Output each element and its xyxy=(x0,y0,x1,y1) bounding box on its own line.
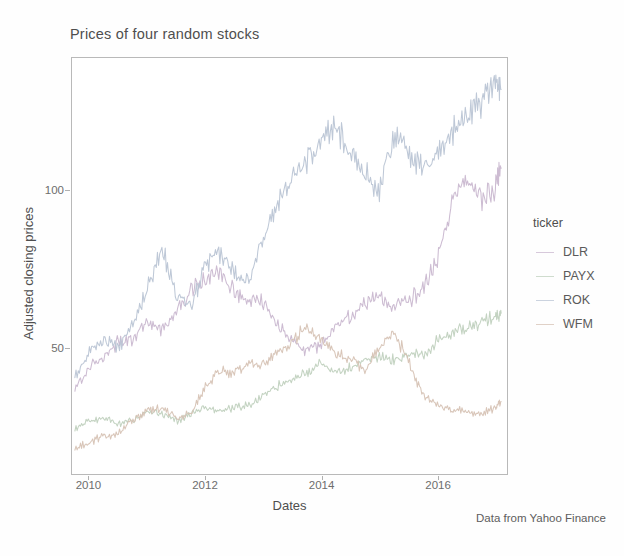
legend-item-label: WFM xyxy=(563,317,593,331)
y-axis-title: Adjusted closing prices xyxy=(21,184,36,364)
legend-item-rok[interactable]: ROK xyxy=(536,288,619,312)
series-line-wfm xyxy=(75,324,501,450)
legend-item-payx[interactable]: PAYX xyxy=(536,264,619,288)
legend-items: DLRPAYXROKWFM xyxy=(533,240,619,336)
series-line-payx xyxy=(75,310,501,431)
x-axis-tick-labels: 2010201220142016 xyxy=(71,479,508,499)
x-tick-mark xyxy=(322,476,323,480)
chart-title: Prices of four random stocks xyxy=(70,26,259,42)
y-tick-label: 100 xyxy=(45,184,64,196)
legend-item-dlr[interactable]: DLR xyxy=(536,240,619,264)
y-tick-label: 50 xyxy=(51,342,64,354)
plot-panel xyxy=(71,57,508,475)
x-tick-label: 2012 xyxy=(192,479,218,491)
legend: ticker DLRPAYXROKWFM xyxy=(533,216,619,336)
legend-swatch-icon xyxy=(536,272,554,281)
legend-item-wfm[interactable]: WFM xyxy=(536,312,619,336)
legend-swatch-icon xyxy=(536,248,554,257)
stock-price-line-chart: Prices of four random stocks 50100 20102… xyxy=(0,0,624,556)
legend-item-label: DLR xyxy=(563,245,588,259)
legend-swatch-icon xyxy=(536,320,554,329)
x-axis-title: Dates xyxy=(71,498,508,513)
plot-lines-svg xyxy=(72,58,507,474)
series-line-rok xyxy=(75,75,501,378)
legend-item-label: PAYX xyxy=(563,269,595,283)
x-tick-label: 2014 xyxy=(309,479,335,491)
chart-caption: Data from Yahoo Finance xyxy=(0,512,606,524)
x-tick-mark xyxy=(438,476,439,480)
legend-item-label: ROK xyxy=(563,293,590,307)
x-tick-label: 2010 xyxy=(76,479,102,491)
x-tick-label: 2016 xyxy=(425,479,451,491)
y-tick-mark xyxy=(65,190,70,191)
x-tick-mark xyxy=(205,476,206,480)
y-tick-mark xyxy=(65,348,70,349)
series-line-dlr xyxy=(75,162,501,391)
x-tick-mark xyxy=(88,476,89,480)
legend-swatch-icon xyxy=(536,296,554,305)
legend-title: ticker xyxy=(533,216,619,230)
